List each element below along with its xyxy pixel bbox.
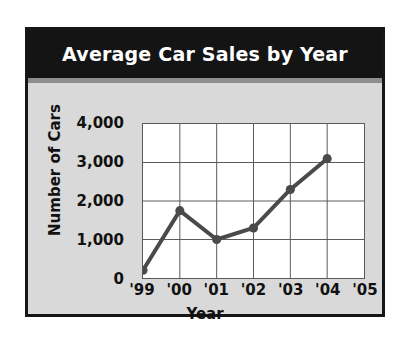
- x-axis-tick-label: '05: [352, 281, 377, 299]
- chart-body: Number of Cars 01,0002,0003,0004,000 '99…: [28, 83, 382, 314]
- y-axis-tick-label: 4,000: [58, 114, 124, 132]
- y-axis-tick-label: 1,000: [58, 231, 124, 249]
- x-axis-tick-label: '01: [204, 281, 229, 299]
- data-point-markers: [143, 154, 332, 275]
- chart-title-banner: Average Car Sales by Year: [28, 30, 382, 78]
- y-axis-tick-labels: 01,0002,0003,0004,000: [58, 123, 124, 279]
- data-point-marker: [286, 185, 295, 194]
- data-series-line: [143, 159, 327, 271]
- plot-area: [142, 123, 365, 279]
- y-axis-tick-label: 3,000: [58, 153, 124, 171]
- x-axis-title: Year: [28, 305, 382, 323]
- x-axis-tick-label: '02: [241, 281, 266, 299]
- data-point-marker: [175, 206, 184, 215]
- line-chart-svg: [143, 124, 364, 278]
- x-axis-tick-labels: '99'00'01'02'03'04'05: [142, 281, 365, 303]
- x-axis-tick-label: '00: [166, 281, 191, 299]
- x-axis-tick-label: '99: [129, 281, 154, 299]
- chart-figure: Average Car Sales by Year Number of Cars…: [25, 27, 385, 317]
- data-point-marker: [249, 223, 258, 232]
- y-axis-tick-label: 0: [58, 270, 124, 288]
- chart-title: Average Car Sales by Year: [62, 43, 348, 65]
- y-axis-tick-label: 2,000: [58, 192, 124, 210]
- x-axis-tick-label: '03: [278, 281, 303, 299]
- data-point-marker: [323, 154, 332, 163]
- data-point-marker: [212, 235, 221, 244]
- x-axis-tick-label: '04: [315, 281, 340, 299]
